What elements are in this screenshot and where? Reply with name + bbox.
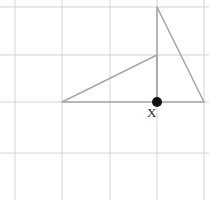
grid-layer (0, 0, 209, 200)
shapes-layer (62, 7, 204, 102)
grid-vertical-lines (15, 0, 204, 200)
grid-horizontal-lines (0, 7, 209, 153)
right-triangle (157, 7, 204, 102)
left-triangle (62, 55, 157, 102)
point-x-label: X (147, 106, 156, 119)
geometry-figure-canvas: X (0, 0, 209, 200)
geometry-figure-svg (0, 0, 209, 200)
